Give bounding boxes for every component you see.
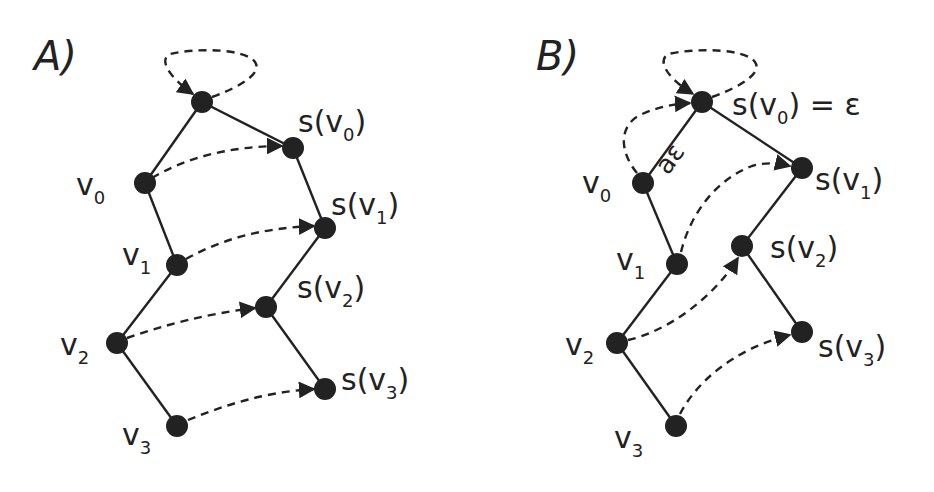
label-v1: v1 [122, 237, 151, 278]
edge-v2-v3 [117, 343, 177, 426]
edge-sv0-sv1 [293, 148, 325, 228]
node-v0 [632, 172, 654, 194]
arrow-v3-sv3 [188, 389, 314, 420]
node-sv0 [282, 137, 304, 159]
label-sv0-eq-epsilon: s(v0) = ε [732, 87, 861, 128]
node-v0 [134, 172, 156, 194]
node-top [191, 91, 213, 113]
label-v0: v0 [582, 165, 611, 206]
label-v2: v2 [60, 327, 89, 368]
panel-a-dashed-arrows [127, 50, 314, 420]
node-sv2 [255, 296, 277, 318]
label-v1: v1 [616, 242, 645, 283]
edge-label-a-epsilon: aε [649, 138, 691, 180]
arrow-v1-sv1 [186, 226, 314, 259]
node-sv3 [314, 378, 336, 400]
label-sv2: s(v2) [297, 270, 365, 311]
label-sv2: s(v2) [770, 230, 838, 271]
edge-v0-v1 [643, 183, 677, 264]
node-v3 [166, 415, 188, 437]
edge-top-sv0 [202, 102, 293, 148]
edge-v0-v1 [145, 183, 177, 265]
node-sv2 [731, 235, 753, 257]
edge-v2-v3 [617, 343, 676, 426]
label-sv0: s(v0) [298, 104, 366, 145]
label-sv1: s(v1) [815, 162, 883, 203]
node-sv1 [791, 157, 813, 179]
node-v3 [665, 415, 687, 437]
node-v2 [606, 332, 628, 354]
arrow-v3-sv3 [680, 335, 790, 414]
edge-top-v0 [145, 102, 202, 183]
node-v1 [166, 254, 188, 276]
panel-a-label: A) [31, 33, 77, 79]
node-top [691, 91, 713, 113]
panel-b-labels: s(v0) = ε v0 v1 v2 v3 s(v1) s(v2) s(v3) [565, 87, 886, 461]
arrow-v0-sv0 [152, 146, 282, 178]
diagram-canvas: A) [0, 0, 934, 492]
label-v3: v3 [122, 417, 151, 458]
label-v2: v2 [565, 327, 594, 368]
label-v3: v3 [614, 420, 643, 461]
arrow-v2-sv2 [127, 308, 255, 338]
label-sv1: s(v1) [331, 187, 399, 228]
panel-b: B) aε [536, 33, 886, 461]
self-loop-arrow [165, 50, 256, 97]
panel-a: A) [31, 33, 409, 458]
panel-a-labels: v0 v1 v2 v3 s(v0) s(v1) s(v2) s(v3) [60, 104, 409, 458]
label-sv3: s(v3) [818, 329, 886, 370]
node-sv3 [791, 321, 813, 343]
node-v1 [666, 253, 688, 275]
label-v0: v0 [76, 167, 105, 208]
label-sv3: s(v3) [341, 362, 409, 403]
panel-b-label: B) [536, 33, 579, 79]
node-v2 [106, 332, 128, 354]
edge-sv2-sv3 [266, 307, 325, 389]
